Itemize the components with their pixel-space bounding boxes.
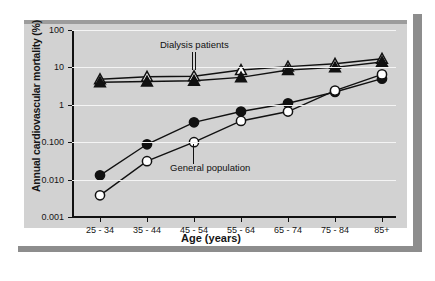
y-axis-tick-label: 0.010 — [24, 175, 64, 185]
x-axis-tick — [194, 217, 195, 222]
data-point-open-circle — [95, 191, 104, 200]
y-axis-tick — [68, 105, 72, 106]
annotation-leader-line — [193, 144, 194, 164]
x-axis-tick — [288, 217, 289, 222]
x-axis-tick — [147, 217, 148, 222]
data-point-filled-circle — [142, 140, 151, 149]
y-axis-tick-label: 10 — [24, 62, 64, 72]
data-point-filled-circle — [95, 171, 104, 180]
data-point-open-circle — [330, 86, 339, 95]
gridline — [72, 67, 396, 68]
y-axis-tick-label: 100 — [24, 25, 64, 35]
data-point-open-circle — [283, 107, 292, 116]
data-point-filled-circle — [189, 118, 198, 127]
data-point-open-circle — [236, 116, 245, 125]
x-axis-tick — [335, 217, 336, 222]
y-axis-tick-label: 0.100 — [24, 137, 64, 147]
annotation-label-dialysis: Dialysis patients — [160, 39, 229, 50]
series-layer — [72, 30, 396, 217]
annotation-leader-line — [195, 52, 196, 70]
annotation-leader-line — [192, 52, 193, 70]
gridline — [72, 30, 396, 31]
data-point-filled-circle — [236, 107, 245, 116]
figure-root: Annual cardiovascular mortality (%) Age … — [0, 0, 435, 281]
x-axis-tick — [241, 217, 242, 222]
y-axis-tick — [68, 67, 72, 68]
gridline — [72, 180, 396, 181]
annotation-label-general: General population — [170, 162, 250, 173]
figure-panel: Annual cardiovascular mortality (%) Age … — [9, 8, 413, 246]
gridline — [72, 142, 396, 143]
y-axis-tick — [68, 217, 72, 218]
x-axis-tick — [100, 217, 101, 222]
gridline — [72, 105, 396, 106]
x-axis-tick-label: 85+ — [352, 225, 412, 235]
y-axis-tick — [68, 142, 72, 143]
data-point-open-circle — [377, 70, 386, 79]
data-point-open-circle — [142, 157, 151, 166]
y-axis-tick-label: 1 — [24, 100, 64, 110]
y-axis-tick — [68, 180, 72, 181]
y-axis-tick-label: 0.001 — [24, 212, 64, 222]
plot-area: 1001010.1000.0100.00125 - 3435 - 4445 - … — [72, 30, 396, 217]
x-axis-tick — [382, 217, 383, 222]
y-axis-tick — [68, 30, 72, 31]
